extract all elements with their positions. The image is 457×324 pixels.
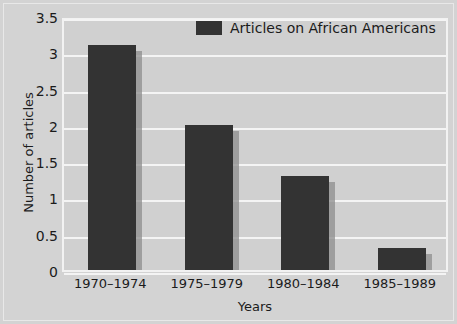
bar-shadow bbox=[136, 51, 142, 270]
bar-shadow bbox=[233, 131, 239, 270]
bar bbox=[378, 248, 426, 270]
x-axis-tick-label: 1975–1979 bbox=[170, 276, 243, 291]
y-axis-tick-label: 0 bbox=[6, 264, 58, 280]
x-axis-title: Years bbox=[62, 299, 448, 314]
y-axis-title: Number of articles bbox=[21, 63, 36, 243]
x-axis-tick-label: 1980–1984 bbox=[267, 276, 340, 291]
legend-swatch-icon bbox=[196, 21, 222, 35]
gridline bbox=[64, 273, 446, 275]
bar-slot bbox=[257, 176, 354, 270]
bar bbox=[281, 176, 329, 270]
bar bbox=[88, 45, 136, 270]
legend: Articles on African Americans bbox=[196, 20, 436, 36]
x-axis-tick-labels: 1970–19741975–19791980–19841985–1989 bbox=[62, 276, 448, 298]
bar-slot bbox=[161, 125, 258, 270]
x-axis-tick-label: 1970–1974 bbox=[74, 276, 147, 291]
bar-slot bbox=[64, 45, 161, 270]
bar-chart-figure: 00.511.522.533.5 1970–19741975–19791980–… bbox=[0, 0, 457, 324]
bar-shadow bbox=[329, 182, 335, 270]
bar bbox=[185, 125, 233, 270]
y-axis-tick-label: 3 bbox=[6, 46, 58, 62]
bar-shadow bbox=[426, 254, 432, 270]
legend-label: Articles on African Americans bbox=[230, 20, 436, 36]
bar-series bbox=[64, 20, 446, 270]
bar-slot bbox=[354, 248, 451, 270]
y-axis-tick-label: 3.5 bbox=[6, 10, 58, 26]
x-axis-tick-label: 1985–1989 bbox=[363, 276, 436, 291]
plot-area bbox=[62, 18, 448, 272]
